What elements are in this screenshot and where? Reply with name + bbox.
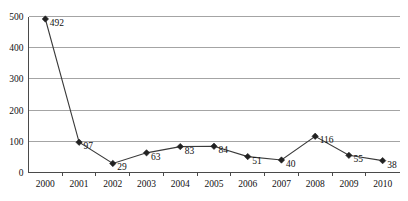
data-point-label: 29 bbox=[117, 162, 127, 172]
data-point-marker bbox=[177, 143, 183, 149]
data-point-marker bbox=[245, 153, 251, 159]
x-axis-tick-labels: 2000200120022003200420052006200720082009… bbox=[36, 179, 393, 189]
y-axis-tick-label: 400 bbox=[9, 43, 24, 53]
y-axis-tick-label: 100 bbox=[9, 137, 24, 147]
x-axis-tick-label: 2002 bbox=[103, 179, 122, 189]
y-axis-tick-label: 200 bbox=[9, 106, 24, 116]
data-point-marker bbox=[76, 139, 82, 145]
x-axis-tick-label: 2004 bbox=[171, 179, 190, 189]
data-point-label: 63 bbox=[151, 152, 161, 162]
data-point-label: 84 bbox=[219, 145, 229, 155]
chart-canvas: 0100200300400500 20002001200220032004200… bbox=[0, 0, 408, 201]
data-point-label: 97 bbox=[84, 141, 94, 151]
y-axis-tick-label: 500 bbox=[9, 12, 24, 22]
data-point-marker bbox=[110, 160, 116, 166]
y-axis-tick-label: 300 bbox=[9, 74, 24, 84]
data-point-marker bbox=[143, 150, 149, 156]
data-point-marker bbox=[379, 157, 385, 163]
data-point-label: 40 bbox=[286, 159, 296, 169]
series-markers bbox=[42, 16, 386, 167]
x-axis-tick-label: 2003 bbox=[137, 179, 156, 189]
y-axis-tick-label: 0 bbox=[19, 168, 24, 178]
line-chart: 0100200300400500 20002001200220032004200… bbox=[0, 0, 408, 201]
data-point-label: 83 bbox=[185, 146, 195, 156]
data-point-labels: 492972963838451401165538 bbox=[50, 18, 397, 172]
data-point-label: 38 bbox=[387, 160, 397, 170]
data-point-label: 55 bbox=[353, 154, 363, 164]
x-axis-tick-label: 2001 bbox=[70, 179, 89, 189]
x-axis-tick-label: 2008 bbox=[306, 179, 325, 189]
data-point-label: 51 bbox=[252, 156, 262, 166]
data-point-label: 116 bbox=[320, 135, 334, 145]
x-axis-tick-label: 2009 bbox=[339, 179, 358, 189]
x-axis-tick-label: 2006 bbox=[238, 179, 257, 189]
y-axis-tick-labels: 0100200300400500 bbox=[9, 12, 24, 178]
data-point-label: 492 bbox=[50, 18, 64, 28]
x-axis-tick-label: 2005 bbox=[205, 179, 224, 189]
x-axis-tick-label: 2000 bbox=[36, 179, 55, 189]
x-axis-tick-label: 2007 bbox=[272, 179, 291, 189]
x-axis-tick-label: 2010 bbox=[373, 179, 392, 189]
x-axis-tick-marks bbox=[62, 173, 366, 177]
data-point-marker bbox=[346, 152, 352, 158]
data-point-marker bbox=[211, 143, 217, 149]
